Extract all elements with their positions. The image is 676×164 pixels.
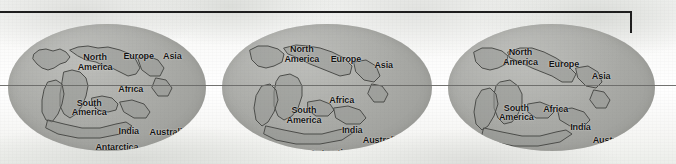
landmass-outline xyxy=(264,126,354,144)
landmass-outline xyxy=(92,96,118,112)
landmass-outline xyxy=(138,56,164,76)
world-map-globe-1: North AmericaEuropeAsiaAfricaSouth Ameri… xyxy=(8,24,206,151)
landmass-outline xyxy=(284,45,352,76)
continental-drift-figure: North AmericaEuropeAsiaAfricaSouth Ameri… xyxy=(0,0,676,164)
landmass-outline xyxy=(558,108,590,126)
landmass-outline xyxy=(474,88,498,130)
landmass-outline xyxy=(254,84,278,126)
landmass-outline xyxy=(46,120,132,138)
landmass-outline xyxy=(70,46,140,76)
landmass-outline xyxy=(508,48,576,82)
landmass-outline xyxy=(482,128,572,146)
landmass-outline xyxy=(334,106,366,124)
world-map-globe-3: North AmericaEuropeAsiaSouth AmericaAfri… xyxy=(448,24,655,151)
coastline-outlines-3 xyxy=(448,24,655,151)
landmass-outline xyxy=(152,78,172,96)
landmass-outline xyxy=(33,49,70,70)
landmass-outline xyxy=(250,46,284,68)
equator-line xyxy=(0,85,676,86)
landmass-outline xyxy=(590,90,610,108)
landmass-outline xyxy=(368,84,388,102)
landmass-outline xyxy=(308,100,334,116)
landmass-outline xyxy=(494,80,522,124)
landmass-outline xyxy=(274,74,302,120)
world-map-globe-2: North AmericaEuropeAsiaAfricaSouth Ameri… xyxy=(222,24,432,151)
landmass-outline xyxy=(354,60,380,82)
landmass-outline xyxy=(474,48,508,70)
coastline-outlines-2 xyxy=(222,24,432,151)
landmass-outline xyxy=(42,80,64,122)
landmass-outline xyxy=(528,102,554,118)
landmass-outline xyxy=(120,100,150,118)
coastline-outlines-1 xyxy=(8,24,206,151)
